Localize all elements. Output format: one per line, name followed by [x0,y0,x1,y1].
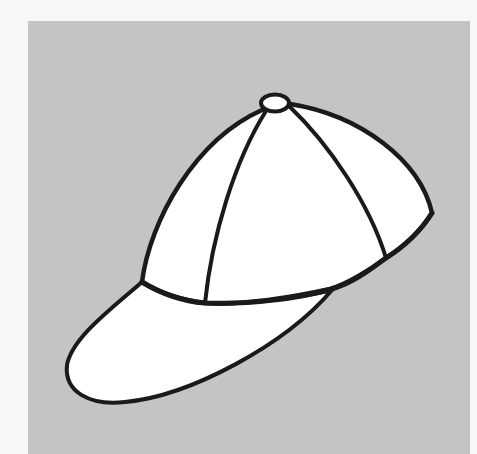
baseball-cap-illustration [0,0,477,454]
cap-crown [142,104,432,303]
cap-button [261,95,289,112]
